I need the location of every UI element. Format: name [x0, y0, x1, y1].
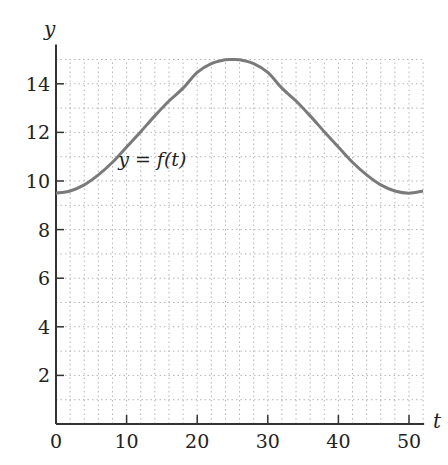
y-tick-label: 14 [26, 73, 50, 95]
x-tick-label: 50 [397, 430, 421, 452]
y-tick-label: 12 [26, 121, 50, 143]
y-tick-label: 10 [26, 170, 50, 192]
tick-labels: 010203040502468101214 [26, 73, 421, 452]
x-tick-label: 30 [256, 430, 280, 452]
x-tick-label: 20 [185, 430, 209, 452]
grid-lines [56, 60, 423, 425]
x-axis-label: t [433, 409, 442, 433]
x-tick-label: 10 [115, 430, 139, 452]
x-tick-label: 0 [50, 430, 62, 452]
y-tick-label: 6 [38, 267, 50, 289]
y-tick-label: 8 [38, 219, 50, 241]
y-tick-label: 2 [38, 364, 50, 386]
curve-annotation: y = f(t) [117, 148, 186, 170]
line-chart: 010203040502468101214 y = f(t) t y [0, 0, 448, 465]
x-tick-label: 40 [326, 430, 350, 452]
y-axis-label: y [43, 17, 56, 41]
y-tick-label: 4 [38, 316, 50, 338]
